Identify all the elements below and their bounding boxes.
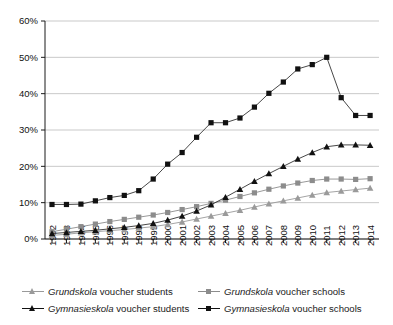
data-point-marker <box>309 149 316 155</box>
data-point-marker <box>324 55 329 60</box>
legend-item-label: Grundskola voucher students <box>48 287 173 297</box>
x-axis-label: 2010 <box>307 225 318 246</box>
data-point-marker <box>136 215 141 220</box>
x-axis-label: 2001 <box>177 225 188 246</box>
x-axis-label: 2004 <box>220 225 231 246</box>
legend-square-icon <box>198 303 220 314</box>
y-axis-label: 0% <box>24 233 38 244</box>
x-axis-label: 2000 <box>162 225 173 246</box>
x-axis-label: 2006 <box>249 225 260 246</box>
series-line <box>52 145 370 234</box>
data-point-marker <box>237 186 244 192</box>
data-point-marker <box>223 120 228 125</box>
data-point-marker <box>122 217 127 222</box>
data-point-marker <box>93 198 98 203</box>
data-point-marker <box>252 105 257 110</box>
y-axis-label: 50% <box>19 52 39 63</box>
data-point-marker <box>179 213 186 219</box>
data-point-marker <box>64 202 69 207</box>
x-axis-label: 2008 <box>278 225 289 246</box>
data-point-marker <box>222 194 229 200</box>
data-point-marker <box>353 113 358 118</box>
y-axis-label: 10% <box>19 197 39 208</box>
data-point-marker <box>310 178 315 183</box>
data-point-marker <box>237 115 242 120</box>
legend-item-label: Grundskola voucher schools <box>224 287 345 297</box>
data-point-marker <box>165 162 170 167</box>
x-axis-label: 2013 <box>350 225 361 246</box>
data-point-marker <box>78 202 83 207</box>
x-axis-label: 2011 <box>321 226 332 246</box>
data-point-marker <box>165 210 170 215</box>
series-line <box>52 57 370 204</box>
data-point-marker <box>367 185 374 191</box>
data-point-marker <box>266 91 271 96</box>
data-point-marker <box>251 178 258 184</box>
data-point-marker <box>281 183 286 188</box>
x-axis-label: 2014 <box>365 225 376 246</box>
x-axis-label: 2009 <box>292 225 303 246</box>
data-point-marker <box>93 222 98 227</box>
y-axis-label: 60% <box>19 15 39 26</box>
y-axis-label: 20% <box>19 161 39 172</box>
data-point-marker <box>368 113 373 118</box>
data-point-marker <box>295 156 302 162</box>
data-point-marker <box>368 176 373 181</box>
x-axis-label: 2003 <box>206 225 217 246</box>
legend-item[interactable]: Grundskola voucher students <box>22 286 198 297</box>
y-axis-label: 40% <box>19 88 39 99</box>
legend-item[interactable]: Grundskola voucher schools <box>198 286 382 297</box>
data-point-marker <box>49 202 54 207</box>
data-point-marker <box>339 176 344 181</box>
x-axis-label: 2012 <box>336 225 347 246</box>
series-4 <box>49 55 372 207</box>
data-point-marker <box>208 120 213 125</box>
data-point-marker <box>237 194 242 199</box>
data-point-marker <box>353 177 358 182</box>
legend-item-label: Gymnasieskola voucher students <box>48 304 189 314</box>
data-point-marker <box>295 180 300 185</box>
legend-triangle-icon <box>22 286 44 297</box>
legend-item[interactable]: Gymnasieskola voucher students <box>22 303 198 314</box>
data-point-marker <box>107 195 112 200</box>
chart-legend: Grundskola voucher studentsGrundskola vo… <box>22 283 382 317</box>
data-point-marker <box>136 188 141 193</box>
voucher-share-chart: 0%10%20%30%40%50%60%19921993199419951996… <box>0 0 393 325</box>
data-point-marker <box>180 150 185 155</box>
data-point-marker <box>151 176 156 181</box>
data-point-marker <box>324 176 329 181</box>
x-axis-label: 2002 <box>191 225 202 246</box>
legend-item-label: Gymnasieskola voucher schools <box>224 304 362 314</box>
data-point-marker <box>107 219 112 224</box>
data-point-marker <box>151 212 156 217</box>
data-point-marker <box>310 62 315 67</box>
y-axis-label: 30% <box>19 124 39 135</box>
data-point-marker <box>180 207 185 212</box>
chart-plot-area: 0%10%20%30%40%50%60%19921993199419951996… <box>0 0 393 325</box>
legend-item[interactable]: Gymnasieskola voucher schools <box>198 303 382 314</box>
data-point-marker <box>266 170 273 176</box>
x-axis-label: 2007 <box>263 225 274 246</box>
data-point-marker <box>122 193 127 198</box>
legend-triangle-icon <box>22 303 44 314</box>
data-point-marker <box>194 135 199 140</box>
data-point-marker <box>339 95 344 100</box>
data-point-marker <box>252 190 257 195</box>
data-point-marker <box>266 187 271 192</box>
legend-square-icon <box>198 286 220 297</box>
data-point-marker <box>281 79 286 84</box>
data-point-marker <box>295 66 300 71</box>
x-axis-label: 2005 <box>235 225 246 246</box>
